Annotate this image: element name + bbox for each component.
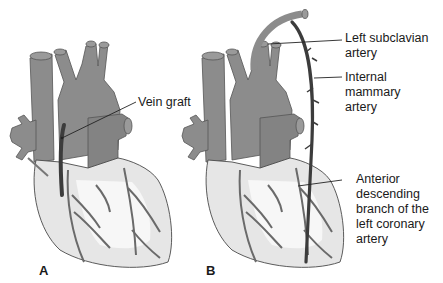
- panel-letter-b: B: [206, 263, 215, 278]
- panel-letter-a: A: [39, 263, 48, 278]
- label-anterior-descending-branch: Anterior descending branch of the left c…: [356, 172, 429, 247]
- panel-a-heart: [10, 41, 172, 267]
- label-left-subclavian-artery: Left subclavian artery: [345, 31, 428, 61]
- panel-b-heart: [182, 10, 344, 268]
- label-internal-mammary-artery: Internal mammary artery: [345, 70, 401, 115]
- internal-mammary-leader: [314, 77, 342, 78]
- label-vein-graft: Vein graft: [138, 95, 191, 110]
